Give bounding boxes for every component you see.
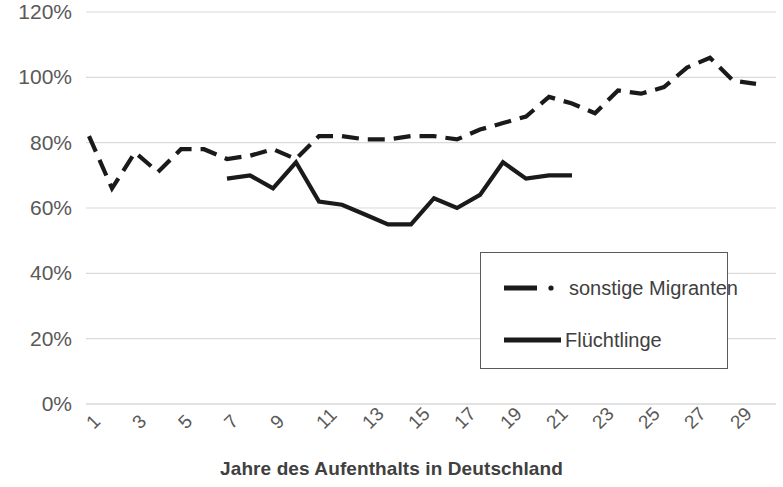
legend-label-sonstige-migranten: sonstige Migranten bbox=[569, 277, 738, 300]
x-axis-tick-label: 23 bbox=[588, 403, 619, 434]
x-axis-tick-label: 7 bbox=[220, 411, 243, 434]
x-axis-tick-label: 25 bbox=[634, 403, 665, 434]
x-axis-tick-label: 13 bbox=[358, 403, 389, 434]
x-axis-tick-label: 3 bbox=[128, 411, 151, 434]
y-axis: 120%100%80%60%40%20%0% bbox=[0, 0, 72, 420]
legend-item-fluechtlinge: Flüchtlinge bbox=[481, 323, 729, 357]
x-axis-tick-label: 11 bbox=[312, 404, 342, 434]
x-axis-tick-label: 29 bbox=[726, 403, 757, 434]
legend-swatch-dashed bbox=[503, 279, 565, 297]
series-layer bbox=[89, 58, 756, 225]
x-axis-tick-label: 17 bbox=[450, 403, 481, 434]
x-axis-tick-label: 27 bbox=[680, 403, 711, 434]
y-axis-tick-label: 120% bbox=[18, 0, 72, 24]
x-axis-tick-label: 5 bbox=[174, 411, 197, 434]
x-axis-tick-label: 1 bbox=[82, 411, 105, 434]
legend-swatch-solid bbox=[503, 331, 565, 349]
x-axis-tick-label: 21 bbox=[542, 403, 573, 434]
x-axis-tick-label: 9 bbox=[266, 411, 289, 434]
x-axis: 1357911131517192123252729 bbox=[0, 410, 783, 460]
y-axis-tick-label: 60% bbox=[30, 196, 72, 220]
x-axis-tick-label: 19 bbox=[496, 403, 527, 434]
line-chart: 120%100%80%60%40%20%0% 13579111315171921… bbox=[0, 0, 783, 487]
x-axis-tick-label: 15 bbox=[404, 403, 435, 434]
y-axis-tick-label: 40% bbox=[30, 261, 72, 285]
legend-item-sonstige-migranten: sonstige Migranten bbox=[481, 271, 729, 305]
chart-legend: sonstige Migranten Flüchtlinge bbox=[480, 252, 728, 369]
y-axis-tick-label: 80% bbox=[30, 131, 72, 155]
x-axis-title: Jahre des Aufenthalts in Deutschland bbox=[0, 458, 783, 480]
y-axis-tick-label: 20% bbox=[30, 327, 72, 351]
series-line-fl-chtlinge bbox=[227, 162, 572, 224]
legend-label-fluechtlinge: Flüchtlinge bbox=[565, 329, 662, 352]
y-axis-tick-label: 100% bbox=[18, 65, 72, 89]
